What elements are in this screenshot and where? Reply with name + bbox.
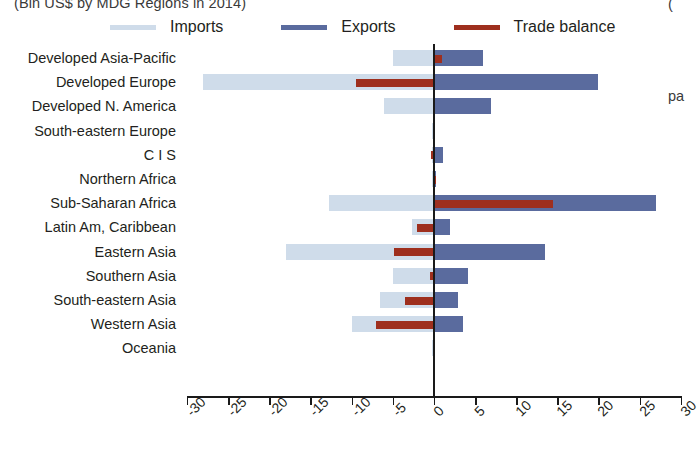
legend-label-exports: Exports [341, 18, 395, 36]
row-bars [0, 215, 697, 239]
row-bars [0, 94, 697, 118]
chart-legend: Imports Exports Trade balance [110, 14, 630, 40]
legend-label-imports: Imports [170, 18, 223, 36]
chart-row: South-eastern Asia [0, 288, 697, 312]
row-bars [0, 143, 697, 167]
legend-item-trade-balance: Trade balance [454, 18, 616, 36]
chart-row: Southern Asia [0, 264, 697, 288]
right-edge-crop-top: ( [668, 0, 673, 12]
chart-row: Developed Asia-Pacific [0, 46, 697, 70]
chart-row: Western Asia [0, 312, 697, 336]
row-bars [0, 336, 697, 360]
chart-row: Sub-Saharan Africa [0, 191, 697, 215]
bar-exports [434, 268, 469, 284]
chart-row: Eastern Asia [0, 240, 697, 264]
legend-swatch-imports [110, 25, 156, 30]
bar-trade-balance [394, 248, 434, 256]
trade-balance-chart: (Bln US$ by MDG Regions in 2014) ( pa Im… [0, 0, 697, 456]
bar-trade-balance [356, 79, 434, 87]
bar-exports [434, 292, 459, 308]
legend-swatch-trade-balance [454, 25, 500, 30]
bar-imports [384, 98, 433, 114]
bar-imports [329, 195, 434, 211]
zero-axis-line [433, 44, 435, 396]
bar-exports [434, 98, 492, 114]
chart-row: Developed N. America [0, 94, 697, 118]
row-bars [0, 191, 697, 215]
bar-trade-balance [376, 321, 434, 329]
chart-row: South-eastern Europe [0, 119, 697, 143]
row-bars [0, 70, 697, 94]
chart-row: Developed Europe [0, 70, 697, 94]
row-bars [0, 119, 697, 143]
chart-title: (Bln US$ by MDG Regions in 2014) [14, 0, 246, 11]
row-bars [0, 167, 697, 191]
chart-row: Northern Africa [0, 167, 697, 191]
bar-trade-balance [434, 200, 553, 208]
row-bars [0, 264, 697, 288]
legend-item-exports: Exports [281, 18, 395, 36]
legend-item-imports: Imports [110, 18, 223, 36]
bar-exports [434, 147, 443, 163]
bar-imports [393, 268, 434, 284]
legend-label-trade-balance: Trade balance [514, 18, 616, 36]
row-bars [0, 312, 697, 336]
row-bars [0, 240, 697, 264]
plot-area: Developed Asia-PacificDeveloped EuropeDe… [0, 46, 697, 391]
axis-tick-label: 5 [471, 402, 488, 419]
chart-row: C I S [0, 143, 697, 167]
legend-swatch-exports [281, 25, 327, 30]
row-bars [0, 46, 697, 70]
bar-exports [434, 219, 450, 235]
chart-row: Oceania [0, 336, 697, 360]
chart-row: Latin Am, Caribbean [0, 215, 697, 239]
bar-trade-balance [405, 297, 434, 305]
bar-exports [434, 244, 545, 260]
row-bars [0, 288, 697, 312]
bar-imports [393, 50, 434, 66]
bar-trade-balance [417, 224, 433, 232]
bar-trade-balance [434, 55, 442, 63]
bar-exports [434, 316, 463, 332]
axis-tick-label: 0 [430, 402, 447, 419]
bar-exports [434, 74, 599, 90]
